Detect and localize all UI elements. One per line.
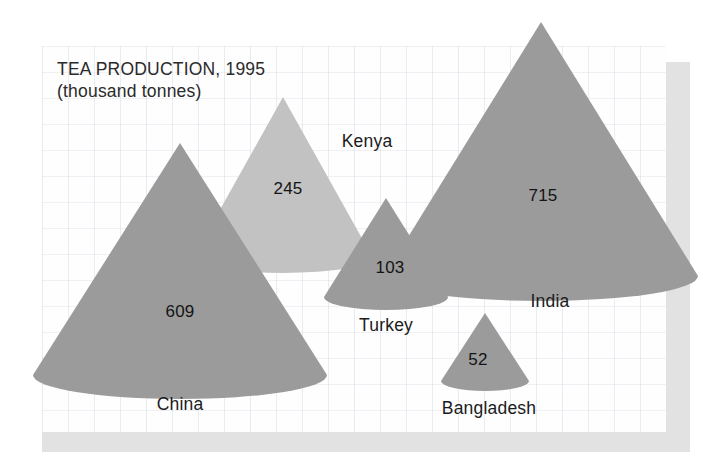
cone-value-turkey: 103 [376,258,405,278]
cone-label-bangladesh: Bangladesh [442,398,536,419]
cone-value-kenya: 245 [274,179,303,199]
cone-shapes-layer [0,0,703,468]
cone-value-bangladesh: 52 [468,350,487,370]
cone-india [384,22,698,301]
cone-label-turkey: Turkey [359,315,413,336]
cone-value-india: 715 [529,186,558,206]
cone-body-india [384,22,698,301]
cone-label-kenya: Kenya [342,131,393,152]
cone-value-china: 609 [166,302,195,322]
cone-label-china: China [157,394,204,415]
cone-label-india: India [531,291,570,312]
chart-canvas: TEA PRODUCTION, 1995 (thousand tonnes) 2… [0,0,703,468]
